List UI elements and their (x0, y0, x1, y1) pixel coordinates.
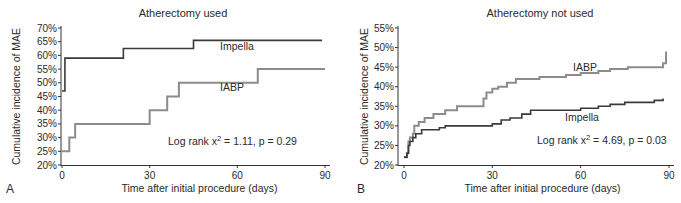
y-tick-label: 50% (37, 77, 57, 88)
y-axis-label: Cumulative incidence of MAE (10, 28, 22, 165)
y-tick-label: 60% (37, 50, 57, 61)
x-tick-label: 60 (575, 170, 587, 181)
x-axis-label: Time after initial procedure (days) (464, 182, 620, 194)
y-tick-label: 55% (37, 64, 57, 75)
x-tick-label: 30 (144, 170, 156, 181)
stat-text: Log rank x (168, 135, 218, 147)
series-label-impella: Impella (220, 40, 254, 52)
series-label-iabp: IABP (573, 61, 597, 73)
chart-title: Atherectomy used (139, 7, 228, 19)
log-rank-annotation: Log rank x2 = 1.11, p = 0.29 (168, 134, 297, 147)
series-label-impella: Impella (565, 111, 599, 123)
stat-text: Log rank x (537, 134, 587, 146)
y-tick-label: 55% (374, 23, 394, 34)
chart-title: Atherectomy not used (486, 7, 593, 19)
y-tick-label: 40% (37, 105, 57, 116)
x-tick-label: 0 (401, 170, 407, 181)
y-tick-label: 20% (37, 160, 57, 171)
y-tick-label: 70% (37, 23, 57, 34)
y-tick-label: 35% (374, 101, 394, 112)
x-tick-label: 30 (487, 170, 499, 181)
x-tick-label: 0 (59, 170, 65, 181)
series-impella-line (404, 98, 663, 157)
panel-letter: B (357, 182, 365, 196)
y-tick-label: 20% (374, 160, 394, 171)
x-tick-label: 90 (663, 170, 675, 181)
stat-values: = 4.69, p = 0.03 (590, 134, 667, 146)
stat-values: = 1.11, p = 0.29 (221, 135, 297, 147)
y-axis-label: Cumulative incidence of MAE (358, 28, 370, 165)
series-label-iabp: IABP (220, 81, 244, 93)
y-tick-label: 35% (37, 118, 57, 129)
chart-b-svg: Atherectomy not used20%25%30%35%40%45%50… (340, 0, 681, 203)
y-tick-label: 30% (37, 132, 57, 143)
y-tick-label: 65% (37, 36, 57, 47)
panel-letter: A (6, 182, 14, 196)
chart-panel-b: Atherectomy not used20%25%30%35%40%45%50… (340, 0, 681, 203)
y-tick-label: 30% (374, 120, 394, 131)
y-tick-label: 40% (374, 81, 394, 92)
y-tick-label: 45% (374, 62, 394, 73)
y-tick-label: 25% (37, 146, 57, 157)
chart-a-svg: Atherectomy used20%25%30%35%40%45%50%55%… (0, 0, 340, 203)
x-tick-label: 60 (232, 170, 244, 181)
chart-panel-a: Atherectomy used20%25%30%35%40%45%50%55%… (0, 0, 340, 203)
y-tick-label: 50% (374, 42, 394, 53)
x-axis-label: Time after initial procedure (days) (121, 182, 277, 194)
log-rank-annotation: Log rank x2 = 4.69, p = 0.03 (537, 133, 667, 146)
y-tick-label: 25% (374, 140, 394, 151)
x-tick-label: 90 (319, 170, 331, 181)
y-tick-label: 45% (37, 91, 57, 102)
